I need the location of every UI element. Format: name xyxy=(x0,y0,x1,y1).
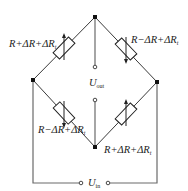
label-resistor-top-right: R−ΔR+ΔRt xyxy=(130,34,179,46)
node-top xyxy=(93,15,97,19)
input-terminal-left xyxy=(79,181,83,185)
input-terminal-right xyxy=(106,181,110,185)
node-bottom xyxy=(93,145,97,149)
bridge-circuit-diagram: R+ΔR+ΔRt R−ΔR+ΔRt R−ΔR+ΔRt R+ΔR+ΔRt Uout… xyxy=(0,0,188,191)
label-output-voltage: Uout xyxy=(89,77,105,89)
output-terminal-top xyxy=(93,65,97,69)
label-resistor-top-left: R+ΔR+ΔRt xyxy=(8,38,57,50)
label-input-voltage: Uin xyxy=(88,177,100,189)
node-left xyxy=(31,78,35,82)
output-terminal-bottom xyxy=(93,98,97,102)
node-right xyxy=(155,80,159,84)
wire-input-right xyxy=(110,82,157,183)
label-resistor-bottom-left: R−ΔR+ΔRt xyxy=(37,124,86,136)
label-resistor-bottom-right: R+ΔR+ΔRt xyxy=(103,144,152,156)
resistor-bottom-right xyxy=(110,97,142,129)
